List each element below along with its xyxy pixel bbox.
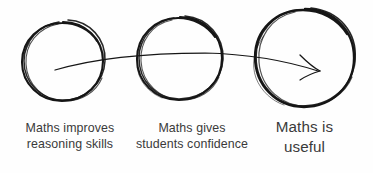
circle-group-2 xyxy=(137,16,223,100)
caption-step-2: Maths gives students confidence xyxy=(130,120,254,153)
arrow-head-lower xyxy=(300,71,320,80)
caption-step-1: Maths improves reasoning skills xyxy=(2,120,138,153)
arrow-shaft xyxy=(55,53,318,71)
circle-1-stroke-e xyxy=(72,23,104,63)
circle-group-1 xyxy=(22,20,105,101)
caption-step-3-line-1: Maths is xyxy=(252,117,357,137)
sketch-figure: Maths improves reasoning skills Maths gi… xyxy=(0,0,373,173)
circle-2-stroke-c xyxy=(141,20,219,100)
caption-step-2-line-1: Maths gives xyxy=(130,120,254,136)
caption-step-1-line-2: reasoning skills xyxy=(2,136,138,152)
caption-step-2-line-2: students confidence xyxy=(130,136,254,152)
caption-step-3-line-2: useful xyxy=(252,137,357,157)
circle-group-3 xyxy=(254,8,356,107)
progression-arrow xyxy=(55,53,320,80)
caption-step-3: Maths is useful xyxy=(252,117,357,157)
circle-3-stroke-c xyxy=(259,12,352,106)
caption-step-1-line-1: Maths improves xyxy=(2,120,138,136)
